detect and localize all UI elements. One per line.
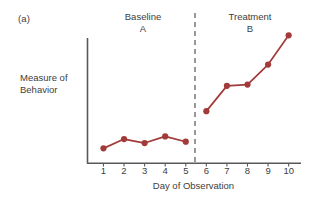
x-axis-tick-label-7: 7 <box>219 165 235 176</box>
data-point-day-3[interactable] <box>142 140 148 146</box>
x-axis-tick-label-2: 2 <box>116 165 132 176</box>
series-line-phase-b <box>206 35 288 111</box>
series-line-path-group <box>103 35 288 148</box>
x-axis-tick-label-10: 10 <box>281 165 297 176</box>
data-point-day-5[interactable] <box>183 139 189 145</box>
data-point-day-2[interactable] <box>121 136 127 142</box>
data-point-day-9[interactable] <box>265 61 271 67</box>
x-axis-tick-label-1: 1 <box>96 165 112 176</box>
x-axis-tick-label-6: 6 <box>198 165 214 176</box>
x-axis-title: Day of Observation <box>74 180 313 191</box>
x-axis-tick-label-9: 9 <box>260 165 276 176</box>
x-axis-tick-label-3: 3 <box>137 165 153 176</box>
data-point-day-10[interactable] <box>286 32 292 38</box>
data-point-day-8[interactable] <box>244 81 250 87</box>
figure-panel: (a) Baseline A Treatment B Measure of Be… <box>0 0 319 207</box>
x-axis-tick-label-5: 5 <box>178 165 194 176</box>
data-point-day-6[interactable] <box>203 108 209 114</box>
x-axis-tick-label-4: 4 <box>157 165 173 176</box>
data-point-day-7[interactable] <box>224 83 230 89</box>
x-axis-tick-label-8: 8 <box>240 165 256 176</box>
data-point-day-1[interactable] <box>100 145 106 151</box>
series-marker-group <box>100 32 291 151</box>
data-point-day-4[interactable] <box>162 133 168 139</box>
